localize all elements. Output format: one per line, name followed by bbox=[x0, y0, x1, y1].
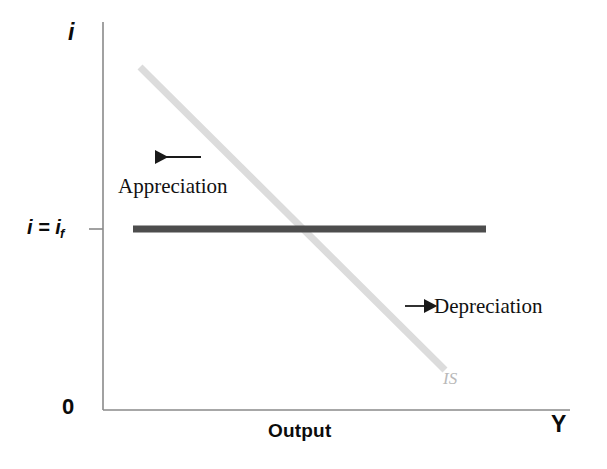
interest-parity-tick-label-main: i = i bbox=[27, 216, 61, 238]
is-curve-label: IS bbox=[443, 370, 457, 387]
is-curve bbox=[140, 67, 445, 370]
interest-parity-tick-label-subscript: f bbox=[60, 226, 64, 241]
x-axis-label: Y bbox=[551, 413, 566, 436]
is-curve-diagram: i Y 0 Output i = if Appreciation Depreci… bbox=[0, 0, 607, 469]
y-axis-label: i bbox=[68, 21, 74, 44]
depreciation-label: Depreciation bbox=[434, 296, 542, 317]
interest-parity-tick-label: i = if bbox=[27, 217, 64, 240]
x-axis-title: Output bbox=[268, 421, 331, 440]
plot-area bbox=[0, 0, 607, 469]
origin-label: 0 bbox=[62, 396, 74, 418]
appreciation-label: Appreciation bbox=[118, 176, 228, 197]
